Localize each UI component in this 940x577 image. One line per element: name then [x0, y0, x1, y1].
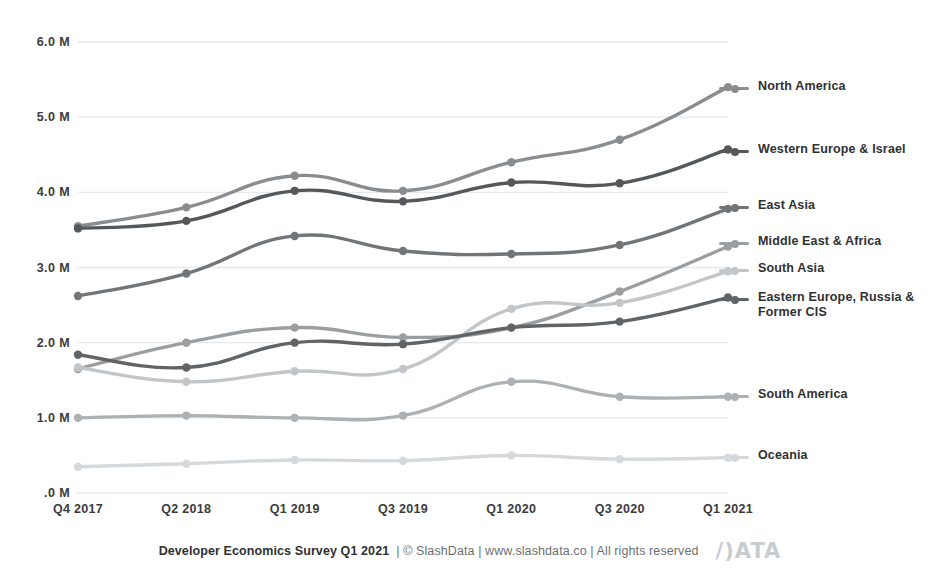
data-point-marker[interactable] — [182, 459, 190, 467]
data-point-marker[interactable] — [615, 287, 623, 295]
legend-item-label: South Asia — [758, 261, 824, 276]
data-point-marker[interactable] — [507, 250, 515, 258]
x-axis-tick-label: Q2 2018 — [161, 502, 211, 516]
data-point-marker[interactable] — [615, 136, 623, 144]
legend-swatch-icon — [719, 390, 749, 402]
legend-item-label: Western Europe & Israel — [758, 142, 906, 157]
data-point-marker[interactable] — [615, 299, 623, 307]
y-axis-tick-label: 3.0 M — [8, 261, 70, 275]
data-point-marker[interactable] — [74, 350, 82, 358]
y-axis-tick-label: 5.0 M — [8, 110, 70, 124]
data-point-marker[interactable] — [507, 305, 515, 313]
x-axis-tick-label: Q4 2017 — [53, 502, 103, 516]
legend-item-label: East Asia — [758, 198, 815, 213]
legend-item-label: North America — [758, 79, 846, 94]
series-lines — [78, 87, 728, 467]
legend-swatch-icon — [719, 264, 749, 276]
data-point-marker[interactable] — [290, 367, 298, 375]
y-axis-tick-label: 4.0 M — [8, 185, 70, 199]
legend-item[interactable]: East Asia — [719, 198, 815, 213]
data-point-marker[interactable] — [399, 197, 407, 205]
data-point-marker[interactable] — [74, 363, 82, 371]
data-point-marker[interactable] — [507, 451, 515, 459]
series-line — [78, 298, 728, 368]
data-point-marker[interactable] — [615, 393, 623, 401]
data-point-marker[interactable] — [615, 317, 623, 325]
legend-item-label: South America — [758, 387, 848, 402]
legend-item[interactable]: Eastern Europe, Russia & Former CIS — [719, 290, 914, 320]
data-point-marker[interactable] — [290, 232, 298, 240]
data-point-marker[interactable] — [74, 462, 82, 470]
y-axis-tick-label: 6.0 M — [8, 35, 70, 49]
legend-item[interactable]: Middle East & Africa — [719, 234, 881, 249]
data-point-marker[interactable] — [290, 456, 298, 464]
data-point-marker[interactable] — [290, 414, 298, 422]
data-point-marker[interactable] — [182, 269, 190, 277]
data-point-marker[interactable] — [290, 172, 298, 180]
gridlines — [78, 42, 728, 493]
legend-item-label: Middle East & Africa — [758, 234, 881, 249]
legend-swatch-icon — [719, 293, 749, 305]
data-point-marker[interactable] — [507, 323, 515, 331]
y-axis-tick-label: .0 M — [8, 486, 70, 500]
data-point-marker[interactable] — [290, 338, 298, 346]
data-point-marker[interactable] — [74, 224, 82, 232]
legend-item[interactable]: South America — [719, 387, 848, 402]
legend-item[interactable]: Western Europe & Israel — [719, 142, 906, 157]
data-point-marker[interactable] — [399, 247, 407, 255]
line-chart: .0 M1.0 M2.0 M3.0 M4.0 M5.0 M6.0 M Q4 20… — [0, 0, 940, 577]
x-axis-tick-label: Q1 2021 — [703, 502, 753, 516]
data-point-marker[interactable] — [182, 203, 190, 211]
slashdata-logo: /)ATA — [716, 539, 782, 563]
data-point-marker[interactable] — [74, 292, 82, 300]
legend-swatch-icon — [719, 237, 749, 249]
legend-item[interactable]: North America — [719, 79, 846, 94]
data-point-marker[interactable] — [615, 455, 623, 463]
data-point-marker[interactable] — [399, 187, 407, 195]
data-point-marker[interactable] — [507, 178, 515, 186]
data-point-marker[interactable] — [507, 158, 515, 166]
legend-swatch-icon — [719, 201, 749, 213]
legend-swatch-icon — [719, 451, 749, 463]
chart-footer: Developer Economics Survey Q1 2021 | © S… — [0, 539, 940, 563]
x-axis-tick-label: Q3 2020 — [595, 502, 645, 516]
x-axis-tick-label: Q1 2019 — [270, 502, 320, 516]
data-point-marker[interactable] — [399, 365, 407, 373]
data-point-marker[interactable] — [507, 378, 515, 386]
data-point-marker[interactable] — [182, 363, 190, 371]
legend-swatch-icon — [719, 145, 749, 157]
data-point-marker[interactable] — [182, 338, 190, 346]
legend-item-label: Oceania — [758, 448, 808, 463]
y-axis-tick-label: 2.0 M — [8, 336, 70, 350]
data-point-marker[interactable] — [182, 378, 190, 386]
data-point-marker[interactable] — [74, 414, 82, 422]
series-line — [78, 246, 728, 369]
legend-item[interactable]: South Asia — [719, 261, 824, 276]
legend-item-label: Eastern Europe, Russia & Former CIS — [758, 290, 914, 320]
data-point-marker[interactable] — [290, 187, 298, 195]
data-point-marker[interactable] — [399, 411, 407, 419]
y-axis-tick-label: 1.0 M — [8, 411, 70, 425]
data-point-marker[interactable] — [182, 411, 190, 419]
data-point-marker[interactable] — [290, 323, 298, 331]
legend-swatch-icon — [719, 82, 749, 94]
legend-item[interactable]: Oceania — [719, 448, 808, 463]
x-axis-tick-label: Q3 2019 — [378, 502, 428, 516]
data-point-marker[interactable] — [399, 340, 407, 348]
data-point-marker[interactable] — [399, 456, 407, 464]
data-point-marker[interactable] — [182, 217, 190, 225]
data-point-marker[interactable] — [615, 241, 623, 249]
footer-attribution: | © SlashData | www.slashdata.co | All r… — [396, 544, 698, 558]
data-point-marker[interactable] — [615, 179, 623, 187]
x-axis-tick-label: Q1 2020 — [486, 502, 536, 516]
footer-survey-title: Developer Economics Survey Q1 2021 — [159, 544, 390, 558]
